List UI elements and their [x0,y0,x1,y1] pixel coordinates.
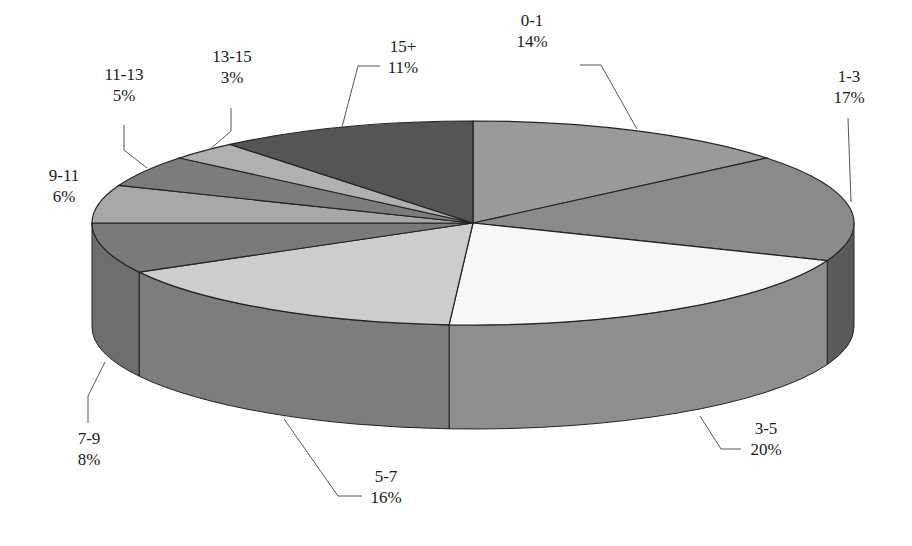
label-1-3: 1-317% [833,66,864,108]
label-3-5: 3-520% [750,418,781,460]
leader-line [848,118,851,202]
label-11-13: 11-135% [104,64,143,106]
pie-top-slices [92,121,854,325]
leader-line [342,66,380,127]
label-0-1: 0-114% [516,10,547,52]
label-7-9: 7-98% [78,428,101,470]
label-15+: 15+11% [388,36,419,78]
label-9-11: 9-116% [49,165,80,207]
leader-line [88,362,105,423]
leader-line [209,108,231,150]
leader-line [284,419,362,496]
leader-line [124,125,147,168]
label-13-15: 13-153% [212,46,252,88]
leader-line [700,416,741,449]
label-5-7: 5-716% [370,466,401,508]
leader-line [580,65,637,129]
